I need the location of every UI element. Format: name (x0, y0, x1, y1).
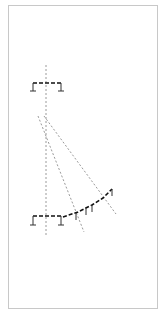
diagonal-guide-lines (38, 116, 116, 232)
curved-beam (63, 189, 112, 220)
top-beam (30, 83, 64, 91)
bottom-beam (30, 216, 64, 225)
diagonal-dashed-line (44, 116, 116, 214)
diagram-canvas (0, 0, 161, 325)
diagonal-dashed-line (38, 116, 84, 232)
curved-beam-line (63, 189, 112, 217)
